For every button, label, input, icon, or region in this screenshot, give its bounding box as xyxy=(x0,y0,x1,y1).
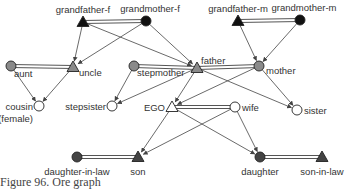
node-stepmother: stepmother xyxy=(129,61,185,78)
node-stepsister: stepsister xyxy=(65,101,117,112)
female-circle-icon xyxy=(255,152,265,162)
node-son-in-law: son-in-law xyxy=(300,151,343,177)
female-circle-icon xyxy=(295,15,305,25)
node-label: uncle xyxy=(79,67,102,78)
node-label: grandfather-m xyxy=(208,3,268,14)
node-sister: sister xyxy=(292,105,327,116)
ore-graph: grandfather-fgrandmother-fgrandfather-mg… xyxy=(0,0,348,189)
descent-edge xyxy=(78,21,146,64)
node-uncle: uncle xyxy=(67,61,102,78)
node-label: sister xyxy=(304,105,327,116)
female-circle-icon xyxy=(141,16,151,26)
figure-caption: Figure 96. Ore graph xyxy=(0,175,101,189)
descent-edge xyxy=(141,107,172,152)
marriage-edge xyxy=(11,66,73,67)
descent-edge xyxy=(146,21,193,64)
descent-edge xyxy=(74,22,83,61)
descent-edge xyxy=(83,22,191,66)
descent-edge xyxy=(238,21,256,61)
female-circle-icon xyxy=(34,101,44,111)
node-label: stepsister xyxy=(65,101,106,112)
node-wife: wife xyxy=(230,102,259,113)
node-label: grandfather-f xyxy=(56,4,111,15)
female-circle-icon xyxy=(230,102,240,112)
marriage-edge xyxy=(197,66,259,68)
descent-edge xyxy=(172,107,255,154)
node-label: son xyxy=(130,166,145,177)
female-circle-icon xyxy=(254,61,264,71)
descent-edge xyxy=(43,67,73,101)
node-label: aunt xyxy=(14,68,33,79)
node-label: grandmother-f xyxy=(120,3,180,14)
descent-edge xyxy=(115,66,134,101)
node-label: daughter xyxy=(241,166,279,177)
descent-edge xyxy=(143,107,235,154)
female-circle-icon xyxy=(72,152,82,162)
node-cousin: cousin(female) xyxy=(0,101,44,124)
node-father: father xyxy=(191,55,225,73)
node-sublabel: (female) xyxy=(0,113,33,124)
node-label: grandmother-m xyxy=(272,2,337,13)
descent-edges xyxy=(11,20,300,154)
marriage-edges xyxy=(11,20,322,157)
node-label: father xyxy=(201,55,225,66)
node-mother: mother xyxy=(254,61,296,76)
node-ego: EGO xyxy=(144,101,178,113)
female-circle-icon xyxy=(107,101,117,111)
node-label: wife xyxy=(241,102,259,113)
descent-edge xyxy=(263,20,300,62)
marriage-edge xyxy=(238,20,300,21)
node-label: mother xyxy=(266,65,296,76)
node-label: son-in-law xyxy=(300,166,343,177)
marriage-edge xyxy=(83,21,146,22)
female-circle-icon xyxy=(292,105,302,115)
node-aunt: aunt xyxy=(6,61,33,79)
node-label: cousin xyxy=(6,101,33,112)
node-label: stepmother xyxy=(137,67,185,78)
descent-edge xyxy=(177,66,259,104)
node-label: EGO xyxy=(144,102,165,113)
node-son: son xyxy=(130,151,145,177)
